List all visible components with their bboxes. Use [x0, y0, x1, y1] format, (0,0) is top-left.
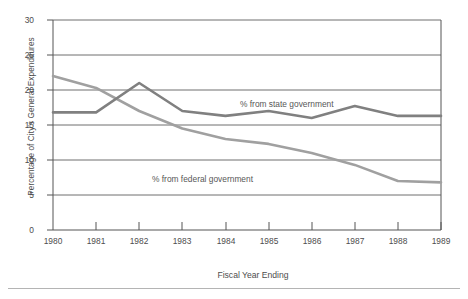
x-tick-label-1982: 1982 — [118, 236, 160, 246]
x-tick-label-1984: 1984 — [205, 236, 247, 246]
x-axis-ticks — [53, 222, 441, 230]
x-tick-label-1986: 1986 — [291, 236, 333, 246]
x-tick-label-1981: 1981 — [75, 236, 117, 246]
x-tick-label-1987: 1987 — [334, 236, 376, 246]
x-axis-title-text: Fiscal Year Ending — [179, 270, 288, 280]
x-tick-label-1989: 1989 — [420, 236, 462, 246]
series-label-federal: % from federal government — [152, 174, 253, 184]
chart-figure: Percentage of City's General Expenditure… — [0, 0, 468, 299]
y-axis-ticks — [47, 20, 53, 230]
x-axis-title: Fiscal Year Ending — [0, 270, 468, 280]
x-tick-label-1988: 1988 — [377, 236, 419, 246]
x-tick-label-1985: 1985 — [248, 236, 290, 246]
footer-rule — [8, 288, 460, 289]
plot-area — [0, 0, 468, 299]
series-line-federal — [53, 76, 441, 182]
x-tick-label-1980: 1980 — [32, 236, 74, 246]
x-tick-label-1983: 1983 — [161, 236, 203, 246]
series-label-state: % from state government — [240, 99, 334, 109]
